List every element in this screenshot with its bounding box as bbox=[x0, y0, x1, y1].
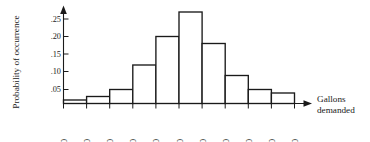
histogram-bar bbox=[271, 93, 294, 104]
x-tick-label: 1200 bbox=[105, 139, 115, 142]
histogram-bar bbox=[87, 97, 110, 104]
x-axis-arrow-icon bbox=[304, 100, 313, 107]
x-tick-label: 1400 bbox=[151, 139, 161, 142]
histogram-bar bbox=[179, 12, 202, 104]
histogram-bar bbox=[202, 44, 225, 104]
histogram-bar bbox=[64, 100, 87, 104]
y-tick-label: .20 bbox=[51, 32, 61, 41]
y-axis-label: Probability of occurrence bbox=[11, 15, 21, 108]
y-tick-label: .15 bbox=[51, 50, 61, 59]
x-tick-label: 1000 bbox=[59, 139, 69, 142]
histogram-bars bbox=[64, 12, 295, 104]
histogram-figure: Probability of occurrence .05 .10 .15 .2… bbox=[0, 0, 370, 142]
x-tick-label: 1500 bbox=[175, 139, 185, 142]
x-tick-label: 1900 bbox=[267, 139, 277, 142]
x-tick-label: 1700 bbox=[221, 139, 231, 142]
histogram-bar bbox=[110, 90, 133, 104]
x-axis-label-group: Gallons demanded bbox=[317, 94, 355, 115]
y-tick-label: .05 bbox=[51, 85, 61, 94]
y-tick-labels: .05 .10 .15 .20 .25 bbox=[51, 15, 61, 95]
histogram-bar bbox=[248, 90, 271, 104]
histogram-chart: Probability of occurrence .05 .10 .15 .2… bbox=[0, 0, 370, 142]
y-axis-arrow-icon bbox=[60, 6, 67, 15]
y-tick-label: .10 bbox=[51, 67, 61, 76]
x-tick-label: 1100 bbox=[82, 139, 92, 142]
x-axis-label-line2: demanded bbox=[317, 105, 355, 115]
x-tick-marks bbox=[64, 104, 295, 109]
histogram-bar bbox=[156, 37, 179, 104]
x-axis-label-line1: Gallons bbox=[317, 94, 346, 104]
x-tick-label: 1300 bbox=[128, 139, 138, 142]
x-tick-label: 2000 bbox=[290, 139, 300, 142]
histogram-bar bbox=[133, 65, 156, 104]
y-tick-label: .25 bbox=[51, 15, 61, 24]
histogram-bar bbox=[225, 76, 248, 104]
y-tick-marks bbox=[64, 19, 69, 90]
x-tick-labels: 1000 1100 1200 1300 1400 1500 1600 1700 … bbox=[59, 139, 300, 142]
y-axis-label-group: Probability of occurrence bbox=[11, 15, 21, 108]
x-tick-label: 1600 bbox=[198, 139, 208, 142]
x-tick-label: 1800 bbox=[244, 139, 254, 142]
